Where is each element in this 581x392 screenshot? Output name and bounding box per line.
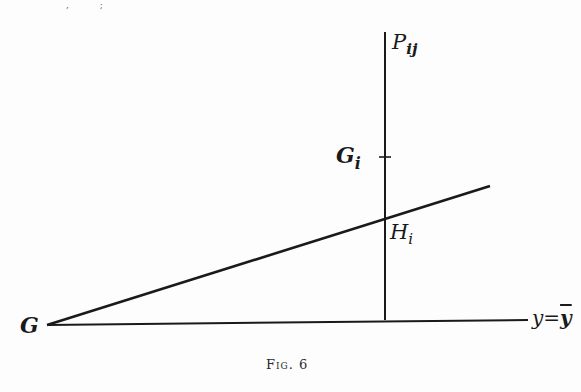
label-P-ij: Pij <box>392 32 417 57</box>
diagram-canvas <box>0 0 581 392</box>
scan-residue: , ; <box>66 0 117 10</box>
base-line-y-equals-ybar <box>47 320 528 325</box>
label-G: G <box>20 314 39 336</box>
figure-6: , ; Pij Gi Hi G y=y Fig. 6 <box>0 0 581 392</box>
label-H-i: Hi <box>390 222 413 247</box>
label-G-i: Gi <box>336 144 361 171</box>
slanted-line-G-Hi <box>47 186 490 325</box>
figure-caption: Fig. 6 <box>266 357 308 372</box>
label-y-equals-ybar: y=y <box>532 308 572 328</box>
